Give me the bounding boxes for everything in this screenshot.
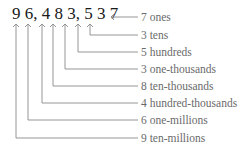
label-ten-millions: 9 ten-millions — [141, 132, 205, 144]
connector-one-millions — [28, 24, 138, 120]
label-tens: 3 tens — [141, 29, 168, 41]
connector-hundred-thousands — [42, 24, 138, 103]
label-hundreds: 5 hundreds — [141, 46, 192, 58]
label-ones: 7 ones — [141, 11, 171, 23]
connector-ten-millions — [16, 24, 138, 138]
label-hundred-thousands: 4 hundred-thousands — [141, 97, 237, 109]
connector-hundreds — [78, 24, 138, 52]
connector-tens — [90, 24, 138, 35]
label-one-millions: 6 one-millions — [141, 114, 208, 126]
connector-one-thousands — [65, 24, 138, 69]
label-ten-thousands: 8 ten-thousands — [141, 80, 214, 92]
connector-ten-thousands — [53, 24, 138, 86]
label-one-thousands: 3 one-thousands — [141, 63, 216, 75]
